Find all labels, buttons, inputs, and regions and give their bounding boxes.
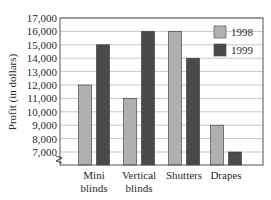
y-tick-label: 11,000 [27, 92, 57, 104]
y-tick-label: 16,000 [27, 25, 58, 37]
x-category-label: Drapes [210, 169, 241, 181]
bar-1999 [142, 31, 155, 165]
y-tick-label: 10,000 [27, 106, 58, 118]
bar-1998 [169, 31, 182, 165]
y-axis-label: Profit (in dollars) [6, 53, 19, 130]
x-axis-categories: MiniblindsVerticalblindsShuttersDrapes [81, 169, 242, 194]
bar-1998 [79, 85, 92, 165]
y-tick-label: 12,000 [27, 79, 58, 91]
y-tick-label: 15,000 [27, 39, 58, 51]
y-axis-ticks: 7,0008,0009,00010,00011,00012,00013,0001… [27, 12, 58, 158]
bar-1999 [97, 45, 110, 165]
legend-swatch [214, 26, 226, 38]
y-tick-label: 17,000 [27, 12, 58, 24]
legend: 19981999 [214, 26, 254, 56]
legend-label: 1999 [231, 44, 254, 56]
x-category-label: Mini [83, 169, 104, 181]
x-category-label: blinds [81, 182, 108, 194]
x-category-label: Shutters [166, 169, 202, 181]
y-tick-label: 9,000 [32, 119, 57, 131]
bar-1999 [187, 58, 200, 165]
bar-1998 [211, 125, 224, 165]
legend-label: 1998 [231, 26, 254, 38]
x-category-label: blinds [126, 182, 153, 194]
y-tick-label: 8,000 [32, 133, 57, 145]
y-tick-label: 14,000 [27, 52, 58, 64]
bar-chart: Profit (in dollars) 7,0008,0009,00010,00… [0, 0, 271, 200]
y-tick-label: 7,000 [32, 146, 57, 158]
x-category-label: Vertical [122, 169, 156, 181]
bar-1998 [124, 98, 137, 165]
bar-1999 [229, 152, 242, 165]
y-tick-label: 13,000 [27, 66, 58, 78]
legend-swatch [214, 44, 226, 56]
